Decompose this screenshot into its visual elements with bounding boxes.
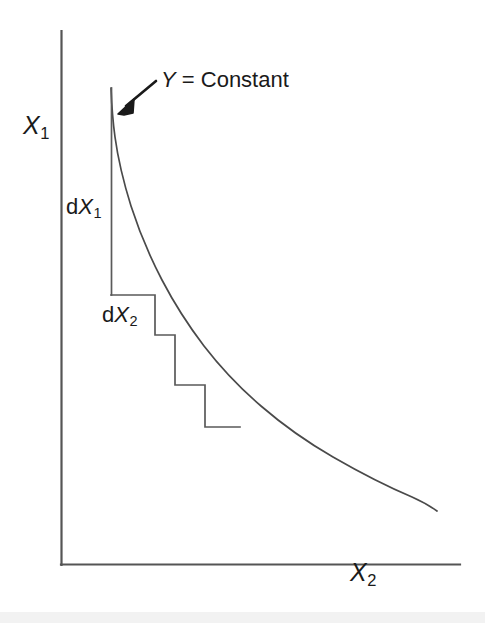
x-axis-label: X2: [350, 560, 377, 585]
dx2-label: dX2: [102, 304, 138, 326]
page-scan-edge: [0, 612, 485, 623]
dx1-label: dX1: [66, 196, 102, 218]
dx2-label-prefix: d: [102, 302, 114, 327]
dx1-label-prefix: d: [66, 194, 78, 219]
y-axis-label-subscript: 1: [40, 124, 50, 142]
curve-annotation-text: = Constant: [176, 67, 289, 92]
figure-canvas: [0, 0, 485, 623]
x-axis-label-var: X: [350, 558, 367, 586]
dx2-label-subscript: 2: [129, 313, 138, 329]
curve-annotation-label: Y = Constant: [161, 69, 289, 91]
y-axis-label-var: X: [23, 111, 40, 139]
arrow-pointer-icon: [118, 81, 156, 115]
dx1-label-subscript: 1: [93, 205, 102, 221]
dx2-label-var: X: [114, 302, 129, 327]
dx1-label-var: X: [78, 194, 93, 219]
y-axis-label: X1: [23, 113, 50, 138]
isoquant-figure: X1 X2 dX1 dX2 Y = Constant: [0, 0, 485, 623]
curve-annotation-var: Y: [161, 67, 176, 92]
isoquant-curve: [111, 88, 437, 511]
x-axis-label-subscript: 2: [367, 571, 377, 589]
